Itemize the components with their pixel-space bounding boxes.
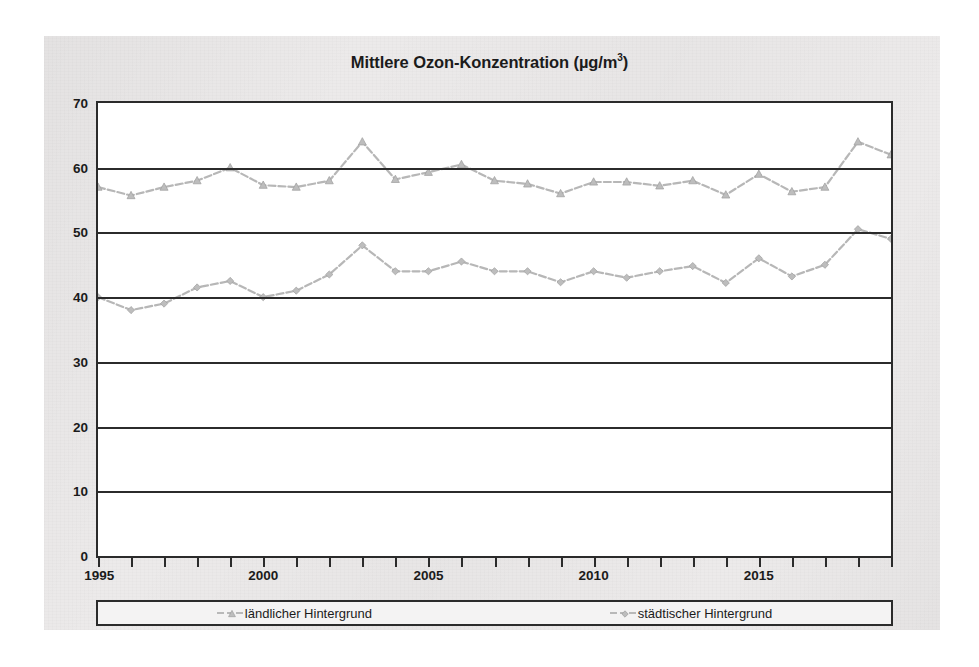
diamond-marker-icon [590, 268, 597, 275]
plot-area [96, 101, 893, 558]
x-tick-2000 [263, 558, 265, 567]
diamond-marker-icon [293, 287, 300, 294]
triangle-marker-icon [854, 138, 862, 145]
diamond-marker-icon [160, 300, 167, 307]
chart-legend: ländlicher Hintergrundstädtischer Hinter… [96, 600, 893, 626]
y-tick-label-20: 20 [48, 419, 88, 434]
x-tick-1999 [230, 558, 232, 567]
x-tick-2003 [362, 558, 364, 567]
x-tick-1998 [197, 558, 199, 567]
x-tick-2013 [693, 558, 695, 567]
y-tick-label-0: 0 [48, 549, 88, 564]
diamond-marker-icon [689, 262, 696, 269]
x-tick-2002 [329, 558, 331, 567]
x-tick-2007 [495, 558, 497, 567]
diamond-marker-icon [227, 277, 234, 284]
diamond-marker-icon [524, 268, 531, 275]
y-tick-label-40: 40 [48, 290, 88, 305]
x-tick-2004 [395, 558, 397, 567]
x-tick-2010 [594, 558, 596, 567]
x-tick-2018 [858, 558, 860, 567]
diamond-marker-icon [491, 268, 498, 275]
y-tick-label-50: 50 [48, 225, 88, 240]
series-urban [98, 226, 891, 314]
diamond-marker-icon [194, 284, 201, 291]
gridline-60 [98, 168, 891, 170]
diamond-marker-icon [458, 258, 465, 265]
diamond-marker-icon [425, 268, 432, 275]
chart-page: Mittlere Ozon-Konzentration (µg/m3) 7060… [0, 0, 979, 667]
legend-label: ländlicher Hintergrund [245, 606, 372, 621]
x-tick-2017 [825, 558, 827, 567]
y-tick-label-10: 10 [48, 484, 88, 499]
gridline-30 [98, 362, 891, 364]
x-tick-1997 [164, 558, 166, 567]
x-tick-2005 [428, 558, 430, 567]
x-axis-labels: 19952000200520102015 [96, 568, 893, 590]
diamond-marker-icon [610, 608, 636, 618]
x-tick-2011 [627, 558, 629, 567]
x-tick-label-2015: 2015 [744, 568, 774, 583]
x-tick-1996 [131, 558, 133, 567]
x-tick-2008 [528, 558, 530, 567]
x-tick-label-1995: 1995 [84, 568, 114, 583]
x-tick-2014 [726, 558, 728, 567]
x-tick-2006 [461, 558, 463, 567]
triangle-marker-icon [217, 608, 243, 618]
legend-entry-urban[interactable]: städtischer Hintergrund [610, 606, 772, 621]
triangle-marker-icon [755, 170, 763, 177]
x-tick-2019 [891, 558, 893, 567]
x-tick-label-2010: 2010 [579, 568, 609, 583]
x-tick-2009 [561, 558, 563, 567]
x-tick-2001 [296, 558, 298, 567]
x-axis-ticks [96, 558, 893, 567]
triangle-marker-icon [457, 160, 465, 167]
chart-title-tail: ) [623, 53, 628, 71]
gridline-40 [98, 297, 891, 299]
y-axis: 706050403020100 [42, 101, 88, 558]
triangle-marker-icon [358, 138, 366, 145]
diamond-marker-icon [887, 235, 891, 242]
x-tick-label-2000: 2000 [248, 568, 278, 583]
x-tick-2015 [759, 558, 761, 567]
chart-title: Mittlere Ozon-Konzentration (µg/m3) [0, 52, 979, 72]
y-tick-label-60: 60 [48, 160, 88, 175]
legend-marker [620, 609, 630, 619]
x-tick-1995 [98, 558, 100, 567]
gridline-50 [98, 232, 891, 234]
diamond-marker-icon [557, 279, 564, 286]
x-tick-2016 [792, 558, 794, 567]
y-tick-label-30: 30 [48, 354, 88, 369]
chart-title-main: Mittlere Ozon-Konzentration (µg/m [351, 53, 618, 71]
legend-marker [227, 609, 237, 619]
y-tick-label-70: 70 [48, 96, 88, 111]
series-canvas [98, 103, 891, 556]
diamond-marker-icon [656, 268, 663, 275]
legend-label: städtischer Hintergrund [638, 606, 772, 621]
diamond-marker-icon [623, 274, 630, 281]
triangle-marker-icon [98, 183, 102, 190]
gridline-10 [98, 491, 891, 493]
x-tick-label-2005: 2005 [413, 568, 443, 583]
x-tick-2012 [660, 558, 662, 567]
gridline-20 [98, 427, 891, 429]
diamond-marker-icon [127, 306, 134, 313]
legend-entry-rural[interactable]: ländlicher Hintergrund [217, 606, 372, 621]
